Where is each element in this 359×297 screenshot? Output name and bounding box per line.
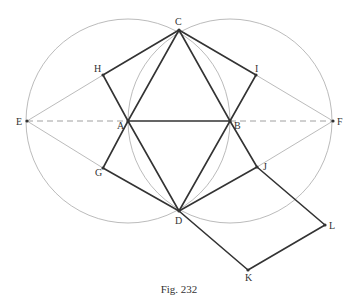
label-K: K bbox=[245, 272, 253, 283]
line-DK bbox=[179, 211, 248, 270]
construction-line-EH bbox=[27, 75, 103, 121]
label-A: A bbox=[117, 120, 125, 131]
figure-caption: Fig. 232 bbox=[161, 283, 198, 295]
construction-line-FI bbox=[256, 75, 333, 121]
label-F: F bbox=[337, 116, 343, 127]
point-A bbox=[126, 119, 129, 122]
label-I: I bbox=[255, 63, 258, 74]
label-G: G bbox=[95, 167, 102, 178]
line-IB bbox=[230, 75, 256, 121]
point-L bbox=[323, 223, 326, 226]
construction-line-FJ bbox=[257, 121, 333, 167]
geometric-construction-figure: C H I E A B F G J D L K Fig. 232 bbox=[0, 0, 359, 297]
point-B bbox=[228, 119, 231, 122]
point-E bbox=[25, 119, 28, 122]
point-H bbox=[101, 73, 104, 76]
label-D: D bbox=[175, 215, 182, 226]
label-C: C bbox=[175, 16, 182, 27]
point-F bbox=[331, 119, 334, 122]
point-J bbox=[255, 165, 258, 168]
point-C bbox=[177, 28, 180, 31]
line-AG bbox=[103, 121, 128, 168]
vertex-dots bbox=[25, 28, 334, 271]
label-J: J bbox=[263, 161, 267, 172]
point-D bbox=[177, 209, 180, 212]
line-BC bbox=[179, 30, 230, 121]
line-CH bbox=[103, 30, 179, 75]
label-H: H bbox=[94, 63, 101, 74]
label-E: E bbox=[16, 116, 22, 127]
line-KL bbox=[248, 225, 325, 270]
line-CI bbox=[179, 30, 256, 75]
line-AD bbox=[128, 121, 179, 211]
label-L: L bbox=[329, 220, 335, 231]
construction-line-EG bbox=[27, 121, 103, 168]
line-AC bbox=[128, 30, 179, 121]
line-HA bbox=[103, 75, 128, 121]
label-B: B bbox=[234, 120, 241, 131]
